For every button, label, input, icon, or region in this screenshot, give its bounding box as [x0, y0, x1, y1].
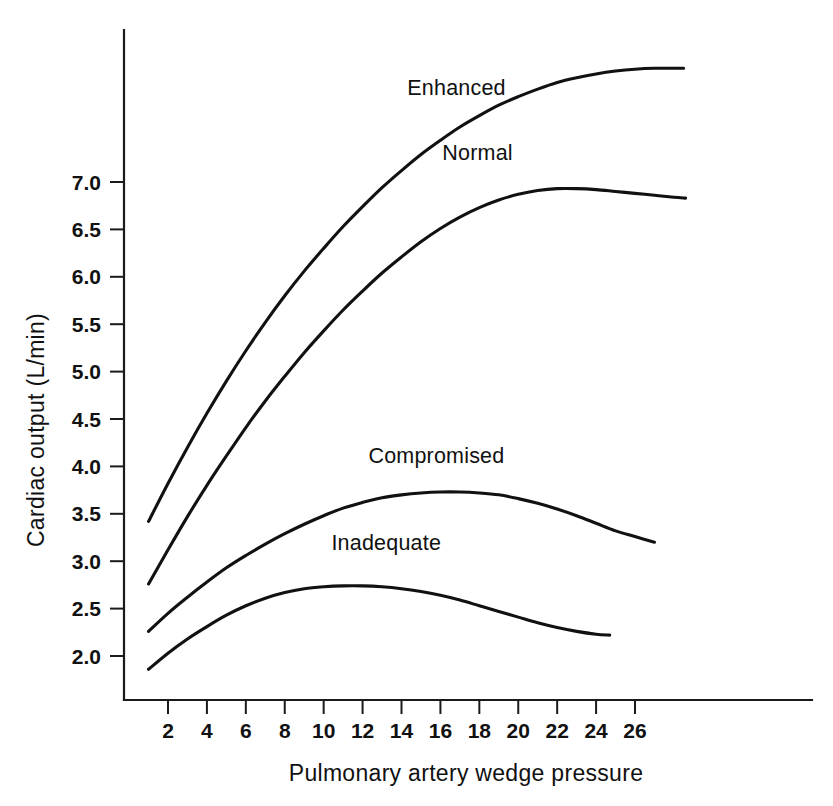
x-tick-label: 8 [279, 719, 291, 742]
cardiac-output-chart: 2.02.53.03.54.04.55.05.56.06.57.0 246810… [0, 0, 833, 806]
y-axis-ticks: 2.02.53.03.54.04.55.05.56.06.57.0 [72, 171, 124, 668]
curve-label-normal: Normal [442, 141, 513, 165]
x-tick-label: 14 [390, 719, 414, 742]
chart-canvas: 2.02.53.03.54.04.55.05.56.06.57.0 246810… [0, 0, 833, 806]
y-tick-label: 2.0 [72, 645, 101, 668]
y-tick-label: 5.0 [72, 360, 101, 383]
x-tick-label: 10 [312, 719, 335, 742]
x-tick-label: 16 [429, 719, 452, 742]
curve-label-inadequate: Inadequate [331, 531, 441, 555]
curve-label-compromised: Compromised [368, 444, 504, 468]
x-tick-label: 2 [162, 719, 174, 742]
x-tick-label: 12 [351, 719, 374, 742]
y-tick-label: 6.0 [72, 265, 101, 288]
x-axis-title: Pulmonary artery wedge pressure [289, 760, 643, 786]
curve-label-enhanced: Enhanced [407, 76, 505, 100]
y-tick-label: 4.5 [72, 408, 102, 431]
curve-labels: EnhancedNormalCompromisedInadequate [331, 76, 512, 555]
x-tick-label: 20 [507, 719, 530, 742]
y-axis-title: Cardiac output (L/min) [23, 313, 49, 547]
x-axis-ticks: 2468101214161820222426 [162, 700, 647, 742]
x-tick-label: 6 [240, 719, 252, 742]
y-tick-label: 3.0 [72, 550, 101, 573]
y-tick-label: 5.5 [72, 313, 102, 336]
x-tick-label: 24 [584, 719, 608, 742]
curve-compromised [149, 492, 655, 631]
x-tick-label: 26 [623, 719, 646, 742]
x-tick-label: 18 [468, 719, 492, 742]
axes [124, 30, 812, 700]
y-tick-label: 4.0 [72, 455, 101, 478]
y-tick-label: 3.5 [72, 502, 102, 525]
y-tick-label: 6.5 [72, 218, 102, 241]
y-tick-label: 7.0 [72, 171, 101, 194]
y-tick-label: 2.5 [72, 597, 102, 620]
x-tick-label: 4 [201, 719, 213, 742]
curve-normal [149, 188, 686, 583]
curve-inadequate [149, 586, 610, 670]
x-tick-label: 22 [545, 719, 568, 742]
data-curves [149, 68, 686, 669]
